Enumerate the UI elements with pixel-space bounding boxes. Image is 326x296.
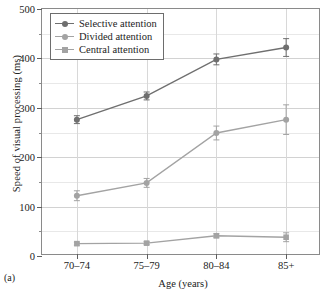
- legend-label: Selective attention: [79, 17, 157, 30]
- y-axis-tick-label: 100: [19, 201, 35, 212]
- data-point-marker: [283, 234, 289, 240]
- series-3: [74, 233, 289, 247]
- series-2: [74, 105, 289, 201]
- data-point-marker: [214, 233, 220, 239]
- x-axis-tick-label: 85+: [278, 260, 294, 271]
- legend-marker-icon: [55, 18, 74, 29]
- series-line: [77, 120, 286, 196]
- data-point-marker: [74, 241, 80, 247]
- figure-panel: Speed of visual processing (ms) Age (yea…: [0, 0, 326, 296]
- legend-label: Divided attention: [79, 30, 152, 43]
- legend-marker-icon: [55, 44, 74, 55]
- y-axis-tick: [37, 256, 42, 257]
- legend-item-1[interactable]: Selective attention: [55, 17, 157, 30]
- x-axis-title: Age (years): [40, 278, 326, 289]
- data-point-marker: [144, 180, 150, 186]
- data-point-marker: [213, 130, 219, 136]
- data-point-marker: [283, 117, 289, 123]
- y-axis-tick-label: 400: [19, 53, 35, 64]
- x-axis-tick-label: 80–84: [203, 260, 229, 271]
- data-point-marker: [144, 93, 150, 99]
- legend-label: Central attention: [79, 43, 149, 56]
- legend-marker-icon: [55, 31, 74, 42]
- x-axis-tick-label: 75–79: [134, 260, 160, 271]
- legend-item-2[interactable]: Divided attention: [55, 30, 157, 43]
- x-axis-tick-label: 70–74: [64, 260, 90, 271]
- y-axis-tick-label: 500: [19, 4, 35, 15]
- data-point-marker: [144, 240, 150, 246]
- data-point-marker: [74, 117, 80, 123]
- y-axis-tick-label: 300: [19, 102, 35, 113]
- data-point-marker: [74, 193, 80, 199]
- panel-label: (a): [4, 272, 15, 283]
- data-point-marker: [213, 56, 219, 62]
- chart-legend: Selective attentionDivided attentionCent…: [50, 13, 164, 60]
- data-point-marker: [283, 45, 289, 51]
- legend-item-3[interactable]: Central attention: [55, 43, 157, 56]
- y-axis-tick-label: 200: [19, 152, 35, 163]
- y-axis-tick-label: 0: [30, 251, 35, 262]
- series-line: [77, 236, 286, 244]
